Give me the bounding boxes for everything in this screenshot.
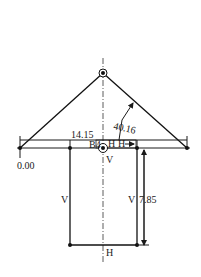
constraint-v-right-label: V	[128, 194, 136, 205]
constraint-h-bottom-label: H	[106, 247, 113, 258]
left-node	[18, 146, 22, 150]
right-link	[103, 73, 187, 148]
apex-pivot-icon	[99, 69, 107, 77]
mechanism-diagram: 40.16 14.15 0.00 7.85 B4 H H V V V H	[0, 0, 201, 277]
link-length-label: 40.16	[113, 120, 137, 135]
origin-label: 0.00	[17, 160, 35, 171]
constraint-v-left-label: V	[61, 194, 69, 205]
constraint-h1-label: H	[108, 138, 115, 149]
link-length-arrow	[122, 103, 133, 120]
constraint-v-center-label: V	[106, 154, 114, 165]
vertical-offset-label: 7.85	[139, 194, 157, 205]
block-label: B4	[89, 139, 101, 150]
right-node	[185, 146, 189, 150]
constraint-h2-label: H	[118, 138, 125, 149]
bottom-left-node	[68, 243, 72, 247]
